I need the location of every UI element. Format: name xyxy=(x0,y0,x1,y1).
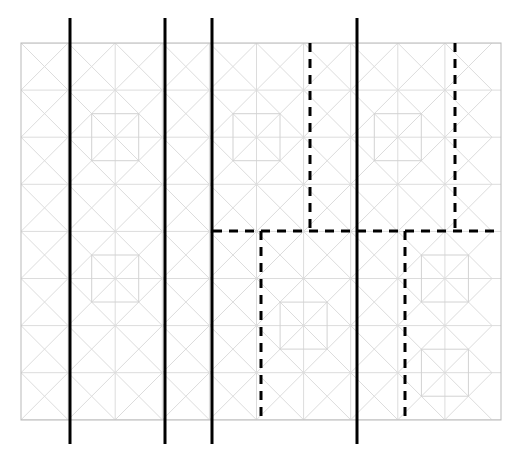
background xyxy=(0,0,525,456)
geometric-tiling-svg xyxy=(0,0,525,456)
figure-canvas xyxy=(0,0,525,456)
